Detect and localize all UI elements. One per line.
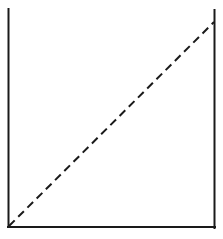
dashed-diagonal (9, 22, 214, 226)
diagram-svg (0, 0, 223, 239)
diagram-canvas (0, 0, 223, 239)
